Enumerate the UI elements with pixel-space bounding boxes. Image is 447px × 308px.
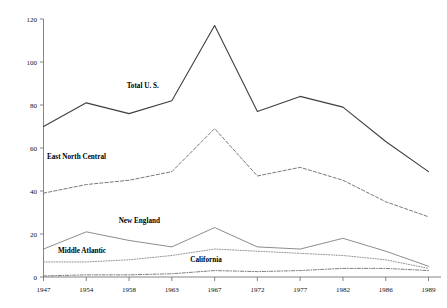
y-axis-tick-label: 20 <box>30 231 38 239</box>
series-label-middle-atlantic: Middle Atlantic <box>58 247 107 255</box>
series-label-california: California <box>190 256 222 264</box>
x-axis-tick-label: 1977 <box>293 286 308 294</box>
x-axis-tick-label: 1963 <box>165 286 180 294</box>
series-label-new-england: New England <box>119 217 160 225</box>
x-axis-tick-label: 1989 <box>422 286 437 294</box>
x-axis-tick-label: 1986 <box>379 286 394 294</box>
series-label-east-north-central: East North Central <box>47 153 106 161</box>
x-axis-tick-label: 1982 <box>336 286 351 294</box>
x-axis-tick-label: 1967 <box>208 286 223 294</box>
x-axis-tick-label: 1954 <box>79 286 94 294</box>
line-chart: 020406080100120 194719541958196319671972… <box>0 0 447 308</box>
y-axis-tick-label: 100 <box>27 59 38 67</box>
x-axis-tick-label: 1958 <box>122 286 137 294</box>
y-axis-tick-label: 0 <box>34 274 38 282</box>
chart-page: 020406080100120 194719541958196319671972… <box>0 0 447 308</box>
x-axis-tick-label: 1972 <box>250 286 265 294</box>
y-axis-tick-label: 80 <box>30 102 38 110</box>
y-axis-tick-label: 60 <box>30 145 38 153</box>
y-axis-tick-label: 120 <box>27 16 38 24</box>
y-axis-tick-label: 40 <box>30 188 38 196</box>
series-label-total-u-s: Total U. S. <box>127 82 159 90</box>
x-axis-tick-label: 1947 <box>37 286 52 294</box>
